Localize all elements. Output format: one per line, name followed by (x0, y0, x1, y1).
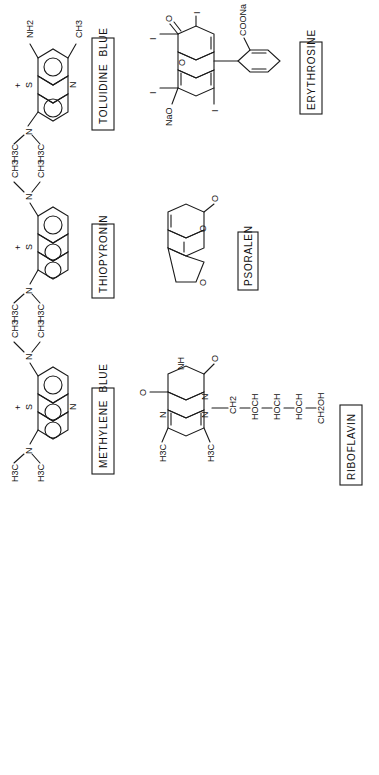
ring-2 (38, 234, 68, 261)
svg-text:N: N (24, 288, 34, 295)
compound-thiopyronin: CH3 CH3 N S + N H3C H3C THIOPYRONIN (10, 160, 114, 322)
ring-3 (38, 252, 68, 279)
svg-text:+: + (13, 405, 23, 410)
svg-text:N: N (158, 412, 168, 419)
compound-erythrosine: O O I I I I NaO COONa ERYTHROSINE (148, 4, 322, 126)
amine-n-label: N (24, 129, 34, 136)
svg-text:I: I (148, 91, 158, 94)
ring-s-label: S (24, 82, 34, 88)
me2-label: H3C (36, 143, 46, 162)
compound-name: THIOPYRONIN (98, 215, 109, 293)
svg-text:H3C: H3C (10, 463, 20, 482)
aromatic-circle-2 (44, 99, 62, 117)
ring-n-label: N (68, 82, 78, 89)
svg-text:H3C: H3C (158, 443, 168, 462)
svg-text:O: O (210, 355, 220, 362)
svg-text:CH2OH: CH2OH (316, 392, 326, 424)
svg-text:O: O (164, 15, 174, 22)
compound-name: TOLUIDINE BLUE (98, 27, 109, 124)
ch3-label: CH3 (74, 20, 84, 38)
svg-text:COONa: COONa (238, 4, 248, 36)
compound-name: PSORALEN (243, 225, 254, 286)
compound-name: RIBOFLAVIN (346, 413, 357, 480)
nh2-label: NH2 (25, 20, 35, 38)
figure-canvas: NH2 CH3 S + N N H3C H3C TOLUIDINE BLUE C… (0, 0, 379, 775)
svg-text:I: I (192, 11, 202, 14)
svg-text:O: O (177, 59, 187, 66)
svg-text:I: I (148, 37, 158, 40)
svg-text:CH3: CH3 (10, 320, 20, 338)
compound-methylene-blue: CH3 CH3 N S + N N H3C H3C METHYLENE BLUE (10, 320, 114, 482)
svg-text:N: N (24, 448, 34, 455)
svg-text:O: O (198, 279, 208, 286)
svg-text:O: O (138, 389, 148, 396)
svg-text:N: N (68, 404, 78, 411)
svg-text:CH3: CH3 (10, 160, 20, 178)
charge-label: + (13, 83, 23, 88)
svg-text:H3C: H3C (36, 303, 46, 322)
svg-text:S: S (24, 404, 34, 410)
svg-text:N: N (24, 194, 34, 201)
svg-text:H3C: H3C (206, 443, 216, 462)
svg-text:+: + (13, 245, 23, 250)
compound-name: ERYTHROSINE (306, 29, 317, 110)
svg-text:HOCH: HOCH (272, 394, 282, 421)
compound-riboflavin: O NH O N N N H3C H3C CH2 HOCH HOCH HOCH … (138, 355, 362, 485)
svg-text:S: S (24, 244, 34, 250)
svg-text:H3C: H3C (10, 303, 20, 322)
svg-text:NaO: NaO (164, 107, 174, 126)
svg-text:N: N (200, 394, 210, 401)
compound-name: METHYLENE BLUE (98, 363, 109, 468)
svg-text:CH2: CH2 (228, 396, 238, 414)
ring-right (38, 49, 68, 85)
svg-text:CH3: CH3 (36, 160, 46, 178)
svg-text:O: O (210, 195, 220, 202)
svg-text:H3C: H3C (36, 463, 46, 482)
structures-figure: NH2 CH3 S + N N H3C H3C TOLUIDINE BLUE C… (0, 0, 379, 775)
me1-label: H3C (10, 143, 20, 162)
svg-text:N: N (24, 354, 34, 361)
aromatic-circle (44, 58, 62, 76)
compound-psoralen: O O O PSORALEN (168, 195, 258, 290)
svg-text:I: I (210, 109, 220, 112)
svg-text:HOCH: HOCH (250, 394, 260, 421)
svg-text:CH3: CH3 (36, 320, 46, 338)
compound-toluidine-blue: NH2 CH3 S + N N H3C H3C TOLUIDINE BLUE (10, 20, 114, 162)
ring-1 (38, 207, 68, 243)
svg-text:HOCH: HOCH (294, 394, 304, 421)
